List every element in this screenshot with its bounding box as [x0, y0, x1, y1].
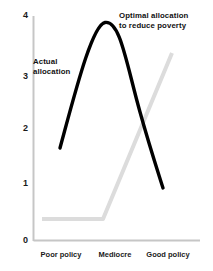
- x-tick-label-good-policy: Good policy: [137, 251, 199, 259]
- x-tick-label-mediocre: Mediocre: [87, 251, 143, 259]
- chart-container: 4 3 2 1 0 Poor policy Mediocre Good poli…: [0, 0, 213, 271]
- y-tick-label-2: 2: [14, 124, 28, 133]
- annotation-optimal-allocation: Optimal allocation to reduce poverty: [119, 11, 211, 30]
- x-tick-label-poor-policy: Poor policy: [30, 251, 92, 259]
- y-tick-label-0: 0: [14, 236, 28, 245]
- annotation-actual-allocation: Actual allocation: [33, 57, 95, 76]
- y-tick-label-4: 4: [14, 11, 28, 20]
- annotation-actual-allocation-line2: allocation: [33, 67, 95, 77]
- y-tick-label-3: 3: [14, 72, 28, 81]
- chart-plot-area: [0, 0, 213, 271]
- series-line-actual-allocation: [60, 22, 163, 188]
- annotation-actual-allocation-line1: Actual: [33, 57, 95, 67]
- annotation-optimal-allocation-line2: to reduce poverty: [119, 21, 211, 31]
- annotation-optimal-allocation-line1: Optimal allocation: [119, 11, 211, 21]
- y-tick-label-1: 1: [14, 179, 28, 188]
